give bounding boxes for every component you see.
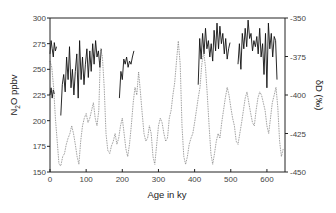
y-left-tick-label: 250 <box>33 65 47 74</box>
x-axis-title: Age in ky <box>147 189 186 200</box>
n2o-series-line <box>238 20 277 88</box>
x-tick-label: 300 <box>152 175 166 184</box>
y-axis-left-title: N2O ppbv <box>8 74 21 115</box>
y-right-tick-label: -350 <box>290 14 307 23</box>
n2o-series-line <box>198 23 230 85</box>
x-tick-label: 0 <box>48 175 53 184</box>
n2o-series-line <box>50 41 57 57</box>
dd-series-line <box>50 41 283 166</box>
n2o-series-line <box>61 41 102 116</box>
y-left-tick-label: 225 <box>33 91 47 100</box>
y-right-tick-label: -375 <box>290 53 307 62</box>
x-tick-label: 600 <box>260 175 274 184</box>
x-tick-label: 100 <box>79 175 93 184</box>
n2o-series-line <box>50 88 54 98</box>
ice-core-chart: 0100200300400500600150175200225250275300… <box>0 0 336 213</box>
y-left-tick-label: 175 <box>33 142 47 151</box>
x-tick-label: 200 <box>116 175 130 184</box>
y-left-tick-label: 200 <box>33 117 47 126</box>
x-tick-label: 400 <box>188 175 202 184</box>
y-right-tick-label: -425 <box>290 130 307 139</box>
plot-frame <box>50 18 285 172</box>
y-left-tick-label: 150 <box>33 168 47 177</box>
n2o-series-line <box>119 51 133 98</box>
y-left-tick-label: 275 <box>33 40 47 49</box>
y-left-tick-label: 300 <box>33 14 47 23</box>
y-right-tick-label: -400 <box>290 91 307 100</box>
y-right-tick-label: -450 <box>290 168 307 177</box>
y-axis-right-title: δD (‰) <box>314 80 325 111</box>
plot-area <box>50 20 283 166</box>
x-tick-label: 500 <box>224 175 238 184</box>
